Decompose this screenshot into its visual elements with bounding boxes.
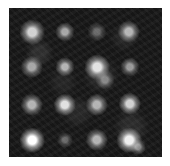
fluorescent-spot bbox=[19, 127, 45, 153]
fluorescent-spot bbox=[19, 19, 45, 45]
fluorescent-spot bbox=[57, 132, 73, 148]
microscopy-image bbox=[9, 8, 162, 157]
fluorescent-spot bbox=[130, 139, 146, 155]
